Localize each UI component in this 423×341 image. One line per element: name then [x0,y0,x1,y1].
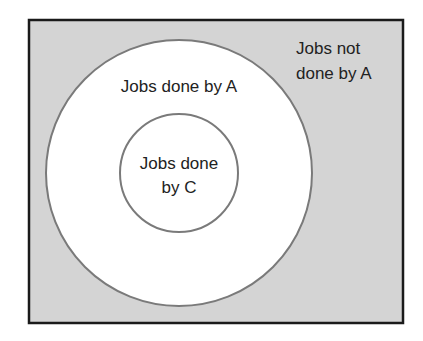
universe-label-line1: Jobs not [296,39,361,58]
inner-set-label-line1: Jobs done [140,154,218,173]
inner-set-label-line2: by C [162,178,197,197]
inner-circle-set-c [120,114,238,232]
venn-diagram: Jobs not done by A Jobs done by A Jobs d… [0,0,423,341]
outer-set-label: Jobs done by A [121,77,238,96]
universe-label-line2: done by A [296,64,372,83]
